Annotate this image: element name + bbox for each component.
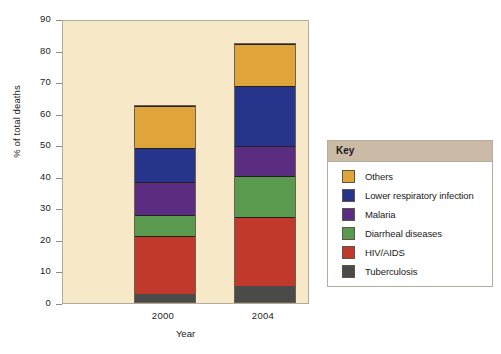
bar-segment-hiv-aids bbox=[135, 236, 195, 294]
legend-item-label: HIV/AIDS bbox=[365, 247, 405, 258]
chart-figure-root: % of total deaths 9080706050403020100 20… bbox=[0, 0, 501, 354]
legend-item-others: Others bbox=[342, 170, 486, 183]
legend-item-label: Malaria bbox=[365, 209, 395, 220]
y-axis-tick-mark bbox=[56, 304, 62, 305]
bar-segment-lower-respiratory-infection bbox=[235, 86, 295, 146]
bar-segment-malaria bbox=[135, 182, 195, 215]
legend-item-label: Diarrheal diseases bbox=[365, 228, 442, 239]
y-axis-tick-label: 40 bbox=[40, 171, 51, 182]
legend-swatch-icon bbox=[342, 170, 355, 183]
plot-area bbox=[62, 20, 309, 304]
legend-items: OthersLower respiratory infectionMalaria… bbox=[328, 162, 492, 286]
bar-segment-lower-respiratory-infection bbox=[135, 148, 195, 182]
y-axis-tick-label: 10 bbox=[40, 265, 51, 276]
y-axis-tick-label: 70 bbox=[40, 76, 51, 87]
x-axis-tick-label-2004: 2004 bbox=[218, 310, 308, 321]
plot-inner bbox=[63, 21, 308, 303]
legend-item-label: Lower respiratory infection bbox=[365, 190, 474, 201]
legend-swatch-icon bbox=[342, 227, 355, 240]
y-axis-tick-label: 90 bbox=[40, 13, 51, 24]
y-axis-tick-label: 50 bbox=[40, 139, 51, 150]
bar-segment-others bbox=[135, 106, 195, 148]
bar-segment-diarrheal-diseases bbox=[235, 176, 295, 216]
y-axis-tick-label: 20 bbox=[40, 234, 51, 245]
bar-segment-malaria bbox=[235, 146, 295, 176]
bar-segment-tuberculosis bbox=[235, 286, 295, 302]
legend-item-hiv-aids: HIV/AIDS bbox=[342, 246, 486, 259]
bar-segment-diarrheal-diseases bbox=[135, 215, 195, 236]
bar-segment-tuberculosis bbox=[135, 294, 195, 302]
y-axis-tick-label: 0 bbox=[46, 297, 51, 308]
bar-2004 bbox=[234, 43, 296, 303]
y-axis-title: % of total deaths bbox=[11, 62, 22, 182]
x-axis-tick-label-2000: 2000 bbox=[118, 310, 208, 321]
bar-segment-hiv-aids bbox=[235, 217, 295, 286]
legend-swatch-icon bbox=[342, 246, 355, 259]
legend-swatch-icon bbox=[342, 189, 355, 202]
legend-item-malaria: Malaria bbox=[342, 208, 486, 221]
legend-item-label: Tuberculosis bbox=[365, 266, 417, 277]
legend-swatch-icon bbox=[342, 208, 355, 221]
legend-title: Key bbox=[328, 141, 492, 162]
legend-item-label: Others bbox=[365, 171, 393, 182]
legend-key-panel: Key OthersLower respiratory infectionMal… bbox=[327, 140, 493, 287]
legend-item-tuberculosis: Tuberculosis bbox=[342, 265, 486, 278]
legend-item-lower-respiratory-infection: Lower respiratory infection bbox=[342, 189, 486, 202]
bar-2000 bbox=[134, 105, 196, 303]
y-axis-tick-label: 60 bbox=[40, 108, 51, 119]
stacked-bar-chart: % of total deaths 9080706050403020100 20… bbox=[0, 0, 320, 354]
y-axis-tick-label: 30 bbox=[40, 202, 51, 213]
x-axis-title: Year bbox=[62, 328, 309, 339]
y-axis-tick-label: 80 bbox=[40, 45, 51, 56]
legend-swatch-icon bbox=[342, 265, 355, 278]
bar-segment-others bbox=[235, 44, 295, 86]
legend-item-diarrheal-diseases: Diarrheal diseases bbox=[342, 227, 486, 240]
